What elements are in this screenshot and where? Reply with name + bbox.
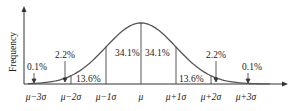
pct-right-tail: 0.1% (242, 62, 262, 72)
y-axis-arrow-icon (22, 6, 27, 12)
tick-label: μ (138, 92, 144, 102)
x-tick-labels: μ−3σ μ−2σ μ−1σ μ μ+1σ μ+2σ μ+3σ (25, 92, 257, 102)
pct-right-34: 34.1% (145, 48, 170, 58)
tick-label: μ+3σ (235, 92, 257, 102)
x-axis-arrow-icon (282, 82, 288, 87)
arrow-down-icon (63, 78, 67, 82)
arrow-down-icon (214, 78, 218, 82)
arrow-down-icon (32, 79, 36, 83)
pct-left-13: 13.6% (76, 74, 101, 84)
tick-label: μ−3σ (25, 92, 47, 102)
tick-label: μ+2σ (200, 92, 222, 102)
tick-label: μ−1σ (95, 92, 117, 102)
y-axis-label: Frequency (8, 32, 18, 72)
pct-left-2: 2.2% (55, 50, 75, 60)
tick-label: μ−2σ (60, 92, 82, 102)
pct-right-2: 2.2% (206, 50, 226, 60)
normal-distribution-chart: Frequency 34.1% 34.1% 13.6% 13.6% 2.2% 2… (0, 0, 290, 111)
pct-left-34: 34.1% (115, 48, 140, 58)
tick-label: μ+1σ (165, 92, 187, 102)
arrow-down-icon (246, 79, 250, 83)
pct-right-13: 13.6% (179, 74, 204, 84)
pct-left-tail: 0.1% (27, 62, 47, 72)
